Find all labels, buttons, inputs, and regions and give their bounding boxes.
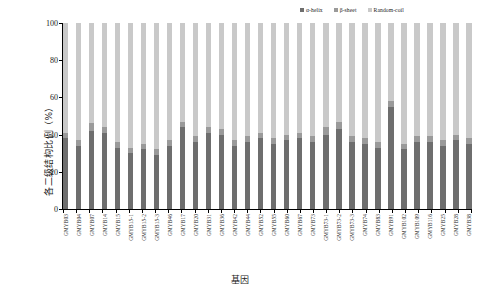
bar-column: [349, 23, 354, 209]
x-tick-mark: [195, 209, 196, 213]
bar-segment: [453, 140, 458, 209]
x-tick-label: GMYB15-3: [154, 214, 160, 241]
bar-column: [323, 23, 328, 209]
x-tick-mark: [102, 209, 103, 213]
x-tick-mark: [418, 209, 419, 213]
x-tick-label-slot: GMYB83: [375, 214, 380, 268]
bar-segment: [89, 123, 94, 130]
y-tick-label: 60: [50, 93, 58, 102]
bar-segment: [427, 142, 432, 209]
bar-column: [115, 23, 120, 209]
bar-segment: [349, 142, 354, 209]
x-tick-mark: [326, 209, 327, 213]
legend-label-random-coil: Random-coil: [374, 7, 404, 13]
bar-segment: [284, 23, 289, 135]
bar-segment: [375, 148, 380, 209]
y-tick-mark: [59, 60, 62, 61]
bar-column: [388, 23, 393, 209]
bar-segment: [167, 146, 172, 209]
x-tick-label-slot: GMYB42: [232, 214, 237, 268]
legend-swatch-alpha-helix: [300, 8, 304, 12]
x-tick-label-slot: GMYB28: [453, 214, 458, 268]
bar-column: [336, 23, 341, 209]
bar-segment: [336, 23, 341, 122]
bar-column: [128, 23, 133, 209]
x-tick-mark: [392, 209, 393, 213]
x-tick-label-slot: GMYB73-1: [323, 214, 328, 268]
x-tick-label: GMYB07: [89, 214, 95, 236]
bar-segment: [440, 146, 445, 209]
bar-segment: [193, 142, 198, 209]
bar-segment: [297, 23, 302, 133]
x-tick-label: GMYB44: [245, 214, 251, 236]
x-tick-mark: [352, 209, 353, 213]
x-tick-label-slot: GMYB46: [167, 214, 172, 268]
x-tick-label: GMYB15-1: [128, 214, 134, 241]
x-tick-label: GMYB109: [414, 214, 420, 239]
x-tick-label-slot: GMYB60: [284, 214, 289, 268]
x-tick-label: GMYB73-3: [349, 214, 355, 241]
x-tick-label-slot: GMYB73-3: [349, 214, 354, 268]
x-tick-mark: [287, 209, 288, 213]
bar-segment: [401, 23, 406, 144]
bar-segment: [362, 23, 367, 138]
x-tick-mark: [234, 209, 235, 213]
x-tick-label: GMYB55: [271, 214, 277, 236]
bar-segment: [323, 23, 328, 127]
bar-segment: [414, 142, 419, 209]
legend-item-beta-sheet: β-sheet: [334, 7, 357, 13]
bar-column: [401, 23, 406, 209]
x-tick-label: GMYB52: [258, 214, 264, 236]
chart-figure: α-helix β-sheet Random-coil 020406080100…: [0, 0, 480, 297]
x-axis-tick-labels: GMYB03GMYB04GMYB07GMYB14GMYB15GMYB15-1GM…: [63, 214, 472, 268]
bar-segment: [102, 133, 107, 209]
x-tick-label-slot: GMYB44: [245, 214, 250, 268]
bar-column: [362, 23, 367, 209]
x-tick-label: GMYB03: [63, 214, 69, 236]
bar-segment: [440, 23, 445, 140]
x-tick-label-slot: GMYB91: [388, 214, 393, 268]
bar-column: [232, 23, 237, 209]
bar-segment: [102, 23, 107, 127]
bar-column: [375, 23, 380, 209]
x-tick-mark: [221, 209, 222, 213]
bar-column: [219, 23, 224, 209]
bar-segment: [245, 142, 250, 209]
bar-segment: [336, 122, 341, 129]
x-tick-label-slot: GMYB03: [63, 214, 68, 268]
bar-segment: [76, 146, 81, 209]
y-axis-title: 各二级结构比例（%）: [42, 102, 55, 196]
bar-column: [102, 23, 107, 209]
x-tick-label: GMYB31: [206, 214, 212, 236]
y-tick-mark: [59, 23, 62, 24]
bar-column: [245, 23, 250, 209]
bar-segment: [258, 138, 263, 209]
bar-column: [258, 23, 263, 209]
bar-column: [180, 23, 185, 209]
x-tick-mark: [313, 209, 314, 213]
y-tick-label: 80: [50, 56, 58, 65]
x-tick-mark: [63, 209, 64, 213]
x-tick-label: GMYB60: [284, 214, 290, 236]
x-tick-label-slot: GMYB73: [310, 214, 315, 268]
bar-segment: [349, 23, 354, 136]
x-tick-label-slot: GMYB15-1: [128, 214, 133, 268]
x-tick-mark: [471, 209, 472, 213]
x-tick-label-slot: GMYB116: [427, 214, 432, 268]
bar-segment: [466, 144, 471, 209]
bar-segment: [219, 135, 224, 209]
bar-segment: [414, 23, 419, 136]
x-tick-label-slot: GMYB14: [102, 214, 107, 268]
bar-column: [271, 23, 276, 209]
x-tick-mark: [89, 209, 90, 213]
x-tick-mark: [339, 209, 340, 213]
bar-column: [76, 23, 81, 209]
bar-column: [89, 23, 94, 209]
bar-segment: [466, 23, 471, 138]
bar-segment: [245, 23, 250, 136]
bar-segment: [115, 23, 120, 142]
bar-segment: [128, 153, 133, 209]
x-tick-mark: [458, 209, 459, 213]
legend-swatch-beta-sheet: [334, 8, 338, 12]
bar-segment: [375, 23, 380, 142]
